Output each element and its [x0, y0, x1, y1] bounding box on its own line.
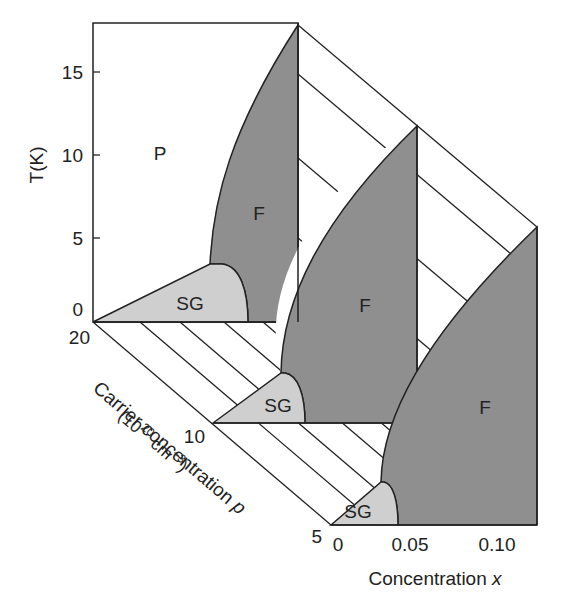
t-tick-5: 5 [72, 228, 83, 249]
t-tick-0: 0 [72, 299, 83, 320]
svg-text:(1020 cm−3): (1020 cm−3) [114, 404, 193, 476]
p-tick-5: 5 [311, 526, 322, 547]
t-tick-10: 10 [62, 145, 83, 166]
p-tick-20: 20 [69, 327, 90, 348]
t-tick-15: 15 [62, 62, 83, 83]
phase-label-sg-p5: SG [344, 501, 371, 522]
x-axis-label: Concentration x [368, 568, 503, 589]
x-tick-0: 0 [333, 534, 344, 555]
phase-label-sg-p10: SG [264, 395, 291, 416]
phase-label-p: P [154, 143, 167, 164]
phase-label-f-p10: F [359, 295, 371, 316]
x-tick-0-05: 0.05 [392, 534, 429, 555]
p-tick-10: 10 [184, 426, 205, 447]
p-axis-unit: (1020 cm−3) [114, 404, 193, 476]
x-tick-0-10: 0.10 [479, 534, 516, 555]
phase-label-sg-p20: SG [176, 293, 203, 314]
panel-p20 [93, 23, 298, 322]
phase-label-f-p20: F [253, 203, 265, 224]
phase-diagram: P F SG F SG F SG 0 5 10 15 T(K) 20 10 5 … [0, 0, 566, 606]
t-axis-label: T(K) [26, 147, 47, 184]
phase-label-f-p5: F [479, 397, 491, 418]
